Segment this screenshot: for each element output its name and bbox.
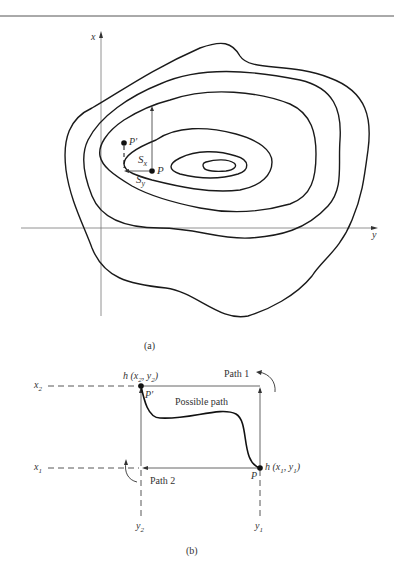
point-p-prime-b-label: P' [145, 390, 153, 400]
y1-sub: 1 [259, 526, 263, 534]
y-axis-label: y [372, 230, 376, 240]
x1-label: x1 [34, 462, 42, 475]
y2-label: y2 [136, 521, 144, 534]
h2-label-main: h (x [123, 370, 138, 381]
sx-label-sub: x [144, 159, 148, 168]
path1-arrowhead-icon [258, 387, 262, 393]
point-p-b [257, 465, 263, 471]
contour-lines [65, 43, 369, 316]
caption-b: (b) [186, 546, 198, 556]
point-p-label: P [157, 165, 164, 176]
path1-curved-arrowhead-icon [256, 370, 262, 375]
x1-sub: 1 [38, 467, 42, 475]
path2-curved-arrowhead-icon [124, 459, 128, 465]
contour-1 [65, 43, 369, 316]
x-axis-label: x [91, 32, 95, 42]
path2-label: Path 2 [150, 476, 175, 486]
path2-arrowhead-icon [142, 466, 148, 470]
path1-label: Path 1 [224, 369, 249, 379]
caption-a: (a) [144, 341, 155, 351]
possible-path-label: Possible path [175, 397, 228, 407]
path1-curved-arrow [259, 372, 275, 392]
point-p-prime-label: P' [129, 137, 137, 147]
h2-mid: , y [142, 370, 151, 381]
sy-label: Sy [136, 174, 145, 188]
h1-label-main: h (x [265, 461, 280, 472]
h1-label: h (x1, y1) [265, 462, 300, 475]
x2-label: x2 [34, 380, 42, 393]
sy-label-sub: y [142, 179, 146, 188]
point-p-prime-b [138, 383, 144, 389]
figure-a [21, 31, 378, 317]
h1-mid: , y [284, 461, 293, 472]
sx-label: Sx [138, 154, 147, 168]
contour-6 [203, 160, 236, 172]
h2-end: ) [155, 370, 158, 381]
x2-sub: 2 [38, 385, 42, 393]
figure-canvas [0, 0, 394, 579]
contour-2 [84, 72, 341, 239]
h1-end: ) [297, 461, 300, 472]
y2-sub: 2 [140, 526, 144, 534]
point-p-prime [121, 140, 127, 146]
point-p [149, 168, 155, 174]
h2-label: h (x2, y2) [123, 371, 158, 384]
y1-label: y1 [255, 521, 263, 534]
point-p-b-label: P [251, 471, 257, 481]
figure-b [48, 370, 275, 518]
x-axis-arrow-icon [99, 31, 103, 38]
